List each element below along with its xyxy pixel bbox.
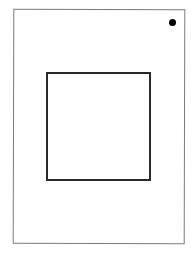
inner-square — [46, 72, 151, 181]
corner-dot-marker — [169, 19, 176, 26]
